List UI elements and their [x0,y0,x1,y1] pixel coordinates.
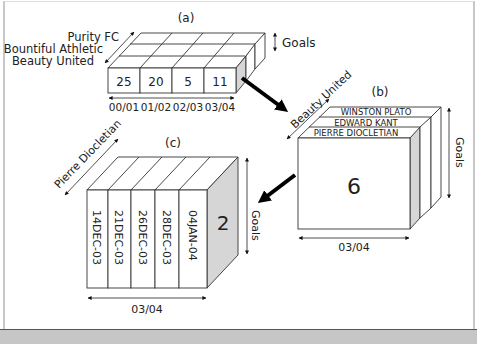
season-label: 03/04 [338,241,370,254]
date-label: 04JAN-04 [186,210,199,261]
panel-c-label: (c) [165,136,181,150]
measure-label: Goals [282,36,316,50]
season-label: 02/03 [173,101,203,113]
panel-b: (b) WINSTON PLATO EDWARD KANT PIERRE DIO… [287,68,466,254]
player-label: WINSTON PLATO [341,107,412,117]
player-label: PIERRE DIOCLETIAN [314,128,399,138]
panel-a-label: (a) [178,11,195,25]
drill-down-arrow-b-to-c [262,175,295,200]
date-label: 28DEC-03 [160,210,173,265]
date-label: 26DEC-03 [136,210,149,265]
panel-b-label: (b) [372,85,389,99]
player-label: EDWARD KANT [334,118,398,128]
cell-value: 11 [212,75,227,89]
season-label: 03/04 [131,303,163,316]
date-label: 21DEC-03 [112,210,125,265]
measure-label: Goals [453,137,466,168]
season-label: 03/04 [205,101,236,113]
season-label: 01/02 [141,101,171,113]
team-label: Beauty United [12,54,94,68]
measure-label: Goals [249,210,262,241]
cell-value: 25 [116,75,131,89]
cell-value: 6 [347,174,361,199]
season-label: 00/01 [109,101,139,113]
cube-a-front-cells: 25 20 5 11 [108,68,236,93]
cell-value: 2 [217,211,230,235]
cube-b-side-shaded [410,127,420,229]
cell-value: 20 [148,75,163,89]
drill-down-arrow-a-to-b [242,78,284,109]
panel-c: (c) 2 14DEC-03 21DEC-03 26DEC-03 28DEC-0… [52,117,262,316]
cell-value: 5 [184,75,192,89]
date-label: 14DEC-03 [90,210,103,265]
